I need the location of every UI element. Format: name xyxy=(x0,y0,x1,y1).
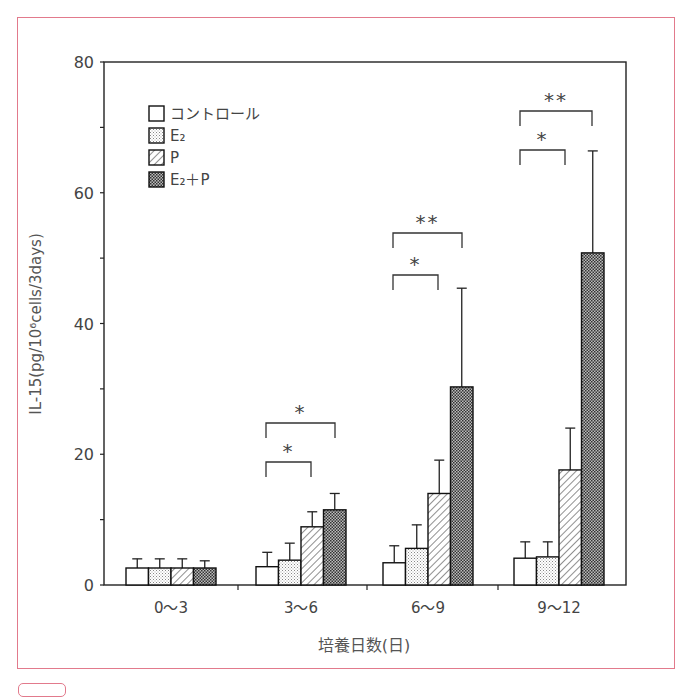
significance-bracket xyxy=(520,111,592,126)
bar xyxy=(279,560,302,585)
legend-label: E₂ xyxy=(170,127,186,145)
significance-bracket xyxy=(393,275,438,290)
bar xyxy=(514,558,537,585)
bar xyxy=(582,253,605,585)
legend-swatch xyxy=(149,172,164,187)
bar xyxy=(324,510,347,585)
x-axis-label: 培養日数(日) xyxy=(318,632,410,656)
legend-label: コントロール xyxy=(170,105,260,123)
y-tick-label: 80 xyxy=(74,53,94,72)
legend-label: P xyxy=(170,149,179,167)
bar xyxy=(428,493,451,585)
significance-bracket xyxy=(393,233,462,248)
significance-marker: ** xyxy=(416,210,440,234)
significance-marker: * xyxy=(283,439,295,463)
x-tick-label: 0〜3 xyxy=(154,599,188,617)
legend-swatch xyxy=(149,106,164,121)
x-tick-label: 6〜9 xyxy=(411,599,445,617)
x-tick-label: 3〜6 xyxy=(284,599,318,617)
y-tick-label: 20 xyxy=(74,445,94,464)
bar xyxy=(171,568,194,585)
x-tick-label: 9〜12 xyxy=(537,599,581,617)
significance-marker: * xyxy=(295,400,307,424)
bar xyxy=(537,557,560,585)
legend-label: E₂＋P xyxy=(170,171,210,189)
significance-bracket xyxy=(266,462,311,477)
y-tick-label: 40 xyxy=(74,315,94,334)
significance-marker: * xyxy=(410,252,422,276)
significance-marker: ** xyxy=(544,88,568,112)
bar xyxy=(126,568,149,585)
bar xyxy=(149,568,172,585)
significance-bracket xyxy=(266,423,335,438)
bar xyxy=(451,387,474,585)
bar xyxy=(256,567,279,585)
y-tick-label: 60 xyxy=(74,184,94,203)
bar xyxy=(406,548,429,585)
y-tick-label: 0 xyxy=(84,576,94,595)
y-axis-label: IL-15(pg/10⁶cells/3days) xyxy=(27,233,45,415)
bar xyxy=(559,470,582,585)
legend-swatch xyxy=(149,150,164,165)
legend-swatch xyxy=(149,128,164,143)
significance-bracket xyxy=(520,150,565,165)
significance-marker: * xyxy=(537,127,549,151)
bar xyxy=(301,527,324,585)
bar xyxy=(383,563,406,585)
bar xyxy=(194,568,217,585)
